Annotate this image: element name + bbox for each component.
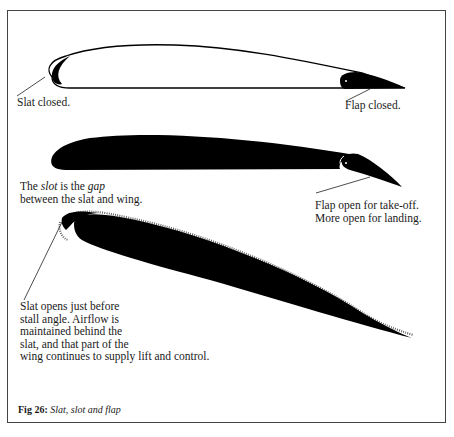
- label-slat-closed: Slat closed.: [17, 96, 70, 109]
- text-line: stall angle. Airflow is: [20, 313, 119, 325]
- text: More open for landing.: [315, 212, 422, 224]
- figure-title: Slat, slot and flap: [50, 404, 121, 415]
- label-slat-open: Slat opens just before stall angle. Airf…: [20, 300, 209, 363]
- leader-line-slat: [17, 77, 45, 96]
- leader-line-slat-open: [24, 222, 62, 300]
- figure-number: Fig 26:: [18, 404, 48, 415]
- flap-hinge-point: [345, 162, 347, 164]
- flap-hinge-point: [345, 80, 347, 82]
- figure-caption: Fig 26: Slat, slot and flap: [18, 404, 121, 415]
- airfoil-closed: [17, 45, 405, 101]
- wing-solid: [51, 135, 355, 170]
- term-gap: gap: [88, 180, 105, 192]
- text: between the slat and wing.: [20, 193, 142, 205]
- text-line: slat, and that part of the: [20, 338, 129, 350]
- label-flap-open: Flap open for take-off. More open for la…: [315, 199, 422, 224]
- leader-line-flap-open: [316, 177, 370, 193]
- text-line: maintained behind the: [20, 325, 122, 337]
- label-slot-definition: The slot is the gap between the slat and…: [20, 180, 142, 205]
- text: The: [20, 180, 41, 192]
- text: is the: [57, 180, 87, 192]
- label-flap-closed: Flap closed.: [345, 99, 401, 112]
- flap-open: [342, 153, 402, 187]
- text: Flap open for take-off.: [315, 199, 419, 211]
- text-line: Slat opens just before: [20, 300, 119, 312]
- term-slot: slot: [41, 180, 58, 192]
- text-line: wing continues to supply lift and contro…: [20, 350, 209, 362]
- flap-closed: [340, 72, 405, 89]
